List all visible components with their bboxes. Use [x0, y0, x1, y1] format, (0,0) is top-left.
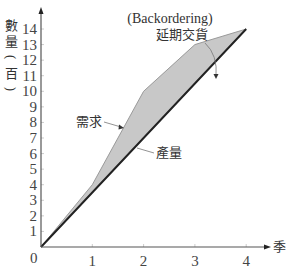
y-axis-label-char: 量 — [5, 34, 18, 49]
x-axis-arrow-icon — [264, 245, 271, 250]
y-axis-label-char: 百 — [5, 66, 18, 81]
y-tick-label: 11 — [23, 68, 37, 84]
y-axis-label-char: ( — [3, 54, 18, 59]
y-tick-label: 13 — [22, 37, 37, 53]
y-tick-label: 8 — [30, 114, 38, 130]
y-tick-label: 2 — [30, 208, 38, 224]
x-tick-label: 4 — [242, 253, 250, 269]
production-pointer — [137, 148, 154, 153]
x-tick-label: 3 — [191, 253, 199, 269]
demand-label: 需求 — [76, 114, 102, 129]
y-tick-label: 4 — [30, 177, 38, 193]
x-tick-labels: 1234 — [89, 244, 251, 269]
demand-pointer — [104, 122, 121, 127]
x-tick-label: 1 — [89, 253, 97, 269]
y-tick-label: 10 — [22, 83, 37, 99]
y-tick-label: 14 — [22, 21, 38, 37]
y-tick-label: 5 — [30, 161, 38, 177]
y-axis-label: 數量(百) — [3, 18, 18, 92]
production-label: 產量 — [156, 145, 182, 160]
backordering-chart: 數量(百) 1234567891011121314 1234 0 季 (Back… — [0, 0, 291, 278]
backorder-pointer-arrowhead-icon — [214, 74, 219, 79]
x-axis-label: 季 — [273, 239, 286, 254]
origin-label: 0 — [30, 250, 38, 266]
backorder-label-zh: 延期交貨 — [156, 27, 208, 42]
y-axis-arrow-icon — [39, 7, 44, 14]
backorder-label-en: (Backordering) — [127, 11, 213, 27]
y-axis-label-char: ) — [3, 86, 18, 91]
y-axis-label-char: 數 — [5, 18, 18, 33]
y-tick-label: 3 — [30, 192, 38, 208]
x-tick-label: 2 — [140, 253, 148, 269]
y-tick-label: 7 — [30, 130, 38, 146]
y-tick-label: 1 — [30, 223, 38, 239]
y-tick-label: 6 — [30, 146, 38, 162]
y-tick-label: 9 — [30, 99, 38, 115]
y-tick-label: 12 — [22, 52, 37, 68]
